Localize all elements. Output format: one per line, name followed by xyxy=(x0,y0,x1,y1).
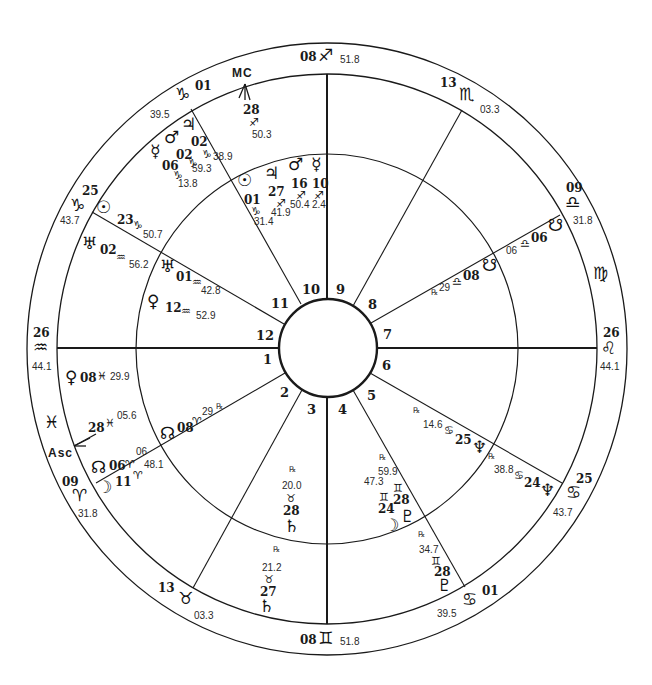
house-number-12: 12 xyxy=(256,329,274,342)
pluto-icon: ♇ xyxy=(400,508,415,525)
cusp-3-degree: 13 xyxy=(158,582,175,594)
house-number-2: 2 xyxy=(280,386,289,399)
house-number-8: 8 xyxy=(368,298,377,311)
neptune-minutes: 14.6 xyxy=(423,420,442,430)
pluto-icon: ♇ xyxy=(437,577,452,594)
saturn-minutes: 20.0 xyxy=(282,481,301,491)
venus-degree: 12 xyxy=(165,302,182,314)
aquarius-icon: ♒ xyxy=(181,306,191,317)
south-node-icon: ☋ xyxy=(482,257,497,274)
neptune-icon: ♆ xyxy=(540,482,555,499)
retrograde-icon: ℞ xyxy=(488,453,495,461)
retrograde-icon: ℞ xyxy=(431,289,438,297)
north-node-degree: 06 xyxy=(109,460,126,472)
sun-degree: 23 xyxy=(117,214,134,226)
cusp-11-degree: 01 xyxy=(195,80,212,92)
mercury-minutes: 13.8 xyxy=(178,179,197,189)
moon-minutes: 48.1 xyxy=(144,460,163,470)
aquarius-icon: ♒ xyxy=(116,252,126,263)
asc-minutes: 05.6 xyxy=(117,411,136,421)
venus-icon: ♀ xyxy=(65,369,77,386)
sagittarius-icon: ♐ xyxy=(318,47,333,64)
jupiter-minutes: 41.9 xyxy=(271,208,290,218)
cusp-3-minutes: 03.3 xyxy=(194,611,213,621)
pisces-icon: ♓ xyxy=(105,418,115,429)
mercury-icon: ☿ xyxy=(150,143,160,160)
jupiter-minutes: 38.9 xyxy=(213,152,232,162)
aries-icon: ♈ xyxy=(133,470,143,481)
house-number-5: 5 xyxy=(367,389,376,402)
moon-icon: ☽ xyxy=(97,479,112,496)
south-node-degree: 08 xyxy=(463,270,480,282)
pluto-degree: 28 xyxy=(393,494,410,506)
mercury-icon: ☿ xyxy=(311,156,321,173)
asc-label: Asc xyxy=(48,447,73,459)
cancer-icon: ♋ xyxy=(566,484,581,501)
taurus-icon: ♉ xyxy=(264,574,274,585)
mars-icon: ♂ xyxy=(164,129,179,146)
mercury-minutes: 2.4 xyxy=(312,200,326,210)
center-hub xyxy=(279,299,377,397)
north-node-icon: ☊ xyxy=(91,459,106,476)
gemini-icon: ♊ xyxy=(318,630,333,647)
retrograde-icon: ℞ xyxy=(379,454,386,462)
house-number-10: 10 xyxy=(302,283,320,296)
saturn-icon: ♄ xyxy=(259,598,274,615)
house-number-4: 4 xyxy=(338,403,347,416)
pluto-minutes: 34.7 xyxy=(419,545,438,555)
house-number-9: 9 xyxy=(336,283,345,296)
mars-minutes: 50.4 xyxy=(290,200,309,210)
moon-degree: 11 xyxy=(115,476,132,488)
sun-icon: ☉ xyxy=(96,199,111,216)
retrograde-icon: ℞ xyxy=(289,466,296,474)
cusp-11-minutes: 39.5 xyxy=(150,110,169,120)
mars-icon: ♂ xyxy=(288,156,303,173)
moon-minutes: 47.3 xyxy=(364,477,383,487)
sun-minutes: 50.7 xyxy=(143,230,162,240)
cusp-2-minutes: 31.8 xyxy=(78,509,97,519)
capricorn-icon: ♑ xyxy=(175,86,190,103)
sun-icon: ☉ xyxy=(237,172,252,189)
retrograde-icon: ℞ xyxy=(216,403,223,411)
cusp-5-minutes: 39.5 xyxy=(437,609,456,619)
asc-degree: 28 xyxy=(88,422,105,434)
mc-degree: 28 xyxy=(243,104,260,116)
uranus-degree: 02 xyxy=(100,244,117,256)
capricorn-icon: ♑ xyxy=(70,197,85,214)
south-node-minutes: 06 xyxy=(506,246,517,256)
venus-minutes: 29.9 xyxy=(110,372,129,382)
uranus-icon: ♅ xyxy=(160,258,175,275)
venus-icon: ♀ xyxy=(147,293,159,310)
north-node-minutes: 29 xyxy=(202,407,213,417)
cusp-7-minutes: 44.1 xyxy=(600,362,619,372)
retrograde-icon: ℞ xyxy=(273,546,280,554)
aries-icon: ♈ xyxy=(192,416,202,427)
pisces-icon: ♓ xyxy=(97,371,107,382)
saturn-icon: ♄ xyxy=(284,518,299,535)
cusp-9-minutes: 03.3 xyxy=(480,105,499,115)
astrology-wheel xyxy=(0,0,652,685)
cancer-icon: ♋ xyxy=(514,470,524,481)
cusp-6-minutes: 43.7 xyxy=(553,508,572,518)
south-node-minutes: 29 xyxy=(439,283,450,293)
moon-degree: 24 xyxy=(378,503,395,515)
jupiter-icon: ♃ xyxy=(264,165,279,182)
neptune-icon: ♆ xyxy=(472,439,487,456)
house-number-11: 11 xyxy=(271,297,289,310)
taurus-icon: ♉ xyxy=(286,493,296,504)
leo-icon: ♌ xyxy=(601,340,616,357)
cusp-line-9 xyxy=(353,110,462,306)
cusp-10-degree: 08 xyxy=(300,51,317,63)
neptune-degree: 25 xyxy=(455,434,472,446)
aries-icon: ♈ xyxy=(72,487,87,504)
capricorn-icon: ♑ xyxy=(133,220,143,231)
libra-icon: ♎ xyxy=(452,276,462,287)
moon-icon: ☽ xyxy=(384,517,399,534)
sagittarius-icon: ♐ xyxy=(249,117,259,128)
sun-minutes: 31.4 xyxy=(254,217,273,227)
capricorn-icon: ♑ xyxy=(202,149,212,160)
uranus-minutes: 42.8 xyxy=(201,286,220,296)
venus-minutes: 52.9 xyxy=(196,311,215,321)
cusp-4-degree: 08 xyxy=(300,634,317,646)
house-number-7: 7 xyxy=(383,328,392,341)
